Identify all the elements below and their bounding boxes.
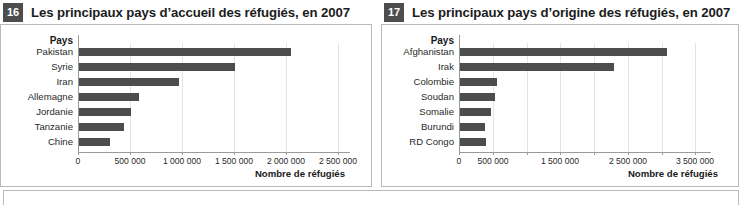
category-label: Allemagne bbox=[28, 92, 73, 102]
chart-gridline bbox=[662, 43, 663, 152]
category-label: Afghanistan bbox=[403, 47, 454, 57]
bar bbox=[460, 108, 491, 116]
bar bbox=[79, 123, 124, 131]
bottom-partial-frame bbox=[3, 190, 739, 205]
value-axis-title: Nombre de réfugiés bbox=[382, 168, 718, 179]
bar bbox=[79, 93, 139, 101]
axis-tick-label: 2 500 000 bbox=[298, 156, 378, 166]
figure-17-title: Les principaux pays d’origine des réfugi… bbox=[412, 5, 730, 20]
figure-17-header: 17 Les principaux pays d’origine des réf… bbox=[381, 0, 739, 24]
category-label: Iran bbox=[56, 77, 73, 87]
category-axis-header: Pays bbox=[50, 35, 73, 46]
bar bbox=[460, 78, 497, 86]
figure-16-title: Les principaux pays d’accueil des réfugi… bbox=[31, 5, 350, 20]
figure-16-header: 16 Les principaux pays d’accueil des réf… bbox=[0, 0, 372, 24]
category-label: Irak bbox=[438, 62, 454, 72]
category-label: Chine bbox=[48, 137, 73, 147]
chart-gridline bbox=[338, 43, 339, 152]
bar bbox=[460, 123, 485, 131]
figure-16-box: Pays0500 0001 000 0001 500 0002 000 0002… bbox=[0, 24, 372, 187]
figure-pair-page: 16 Les principaux pays d’accueil des réf… bbox=[0, 0, 739, 205]
category-label: Colombie bbox=[413, 77, 454, 87]
category-label: RD Congo bbox=[409, 137, 454, 147]
category-label: Pakistan bbox=[36, 47, 73, 57]
bar bbox=[79, 108, 131, 116]
figure-16-badge: 16 bbox=[3, 3, 23, 22]
category-axis-header: Pays bbox=[431, 35, 454, 46]
category-label: Tanzanie bbox=[35, 122, 73, 132]
bar bbox=[79, 63, 235, 71]
value-axis-title: Nombre de réfugiés bbox=[1, 168, 345, 179]
chart-gridline bbox=[560, 43, 561, 152]
figure-gutter bbox=[372, 24, 381, 190]
category-label: Jordanie bbox=[36, 107, 73, 117]
bar bbox=[460, 48, 667, 56]
chart-origine: Pays0500 0001 500 0002 500 0003 500 000A… bbox=[382, 25, 738, 186]
chart-gridline bbox=[286, 43, 287, 152]
bar bbox=[79, 138, 110, 146]
chart-gridline bbox=[182, 43, 183, 152]
figure-17: 17 Les principaux pays d’origine des réf… bbox=[381, 0, 739, 187]
axis-tick-label: 3 500 000 bbox=[655, 156, 735, 166]
bar bbox=[460, 63, 614, 71]
chart-gridline bbox=[695, 43, 696, 152]
category-label: Somalie bbox=[419, 107, 454, 117]
value-axis-line bbox=[78, 152, 350, 153]
value-axis-line bbox=[459, 152, 711, 153]
chart-gridline bbox=[527, 43, 528, 152]
bar bbox=[460, 138, 486, 146]
category-label: Soudan bbox=[421, 92, 454, 102]
figure-16: 16 Les principaux pays d’accueil des réf… bbox=[0, 0, 372, 187]
bar bbox=[460, 93, 495, 101]
chart-gridline bbox=[628, 43, 629, 152]
category-axis-line bbox=[78, 35, 79, 152]
bar bbox=[79, 78, 179, 86]
category-axis-line bbox=[459, 35, 460, 152]
category-label: Burundi bbox=[421, 122, 454, 132]
figure-17-badge: 17 bbox=[384, 3, 404, 22]
bar bbox=[79, 48, 291, 56]
category-label: Syrie bbox=[51, 62, 73, 72]
chart-accueil: Pays0500 0001 000 0001 500 0002 000 0002… bbox=[1, 25, 371, 186]
chart-gridline bbox=[234, 43, 235, 152]
chart-gridline bbox=[594, 43, 595, 152]
figure-17-box: Pays0500 0001 500 0002 500 0003 500 000A… bbox=[381, 24, 739, 187]
